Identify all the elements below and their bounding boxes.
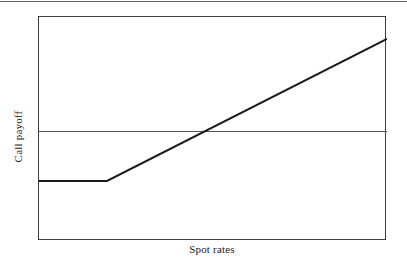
call-payoff-chart: Call payoff Spot rates <box>0 0 407 273</box>
y-axis-label: Call payoff <box>18 0 128 273</box>
x-axis-label: Spot rates <box>38 243 386 255</box>
